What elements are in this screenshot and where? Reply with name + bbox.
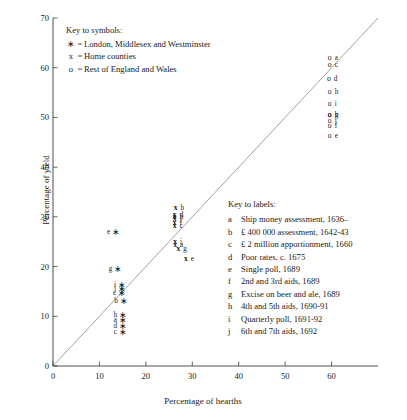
symbol-legend: Key to symbols: ∗=London, Middlesex and … <box>66 24 211 75</box>
x-tick-label: 0 <box>51 371 55 381</box>
data-point-marker: o <box>327 75 331 83</box>
x-tick-label: 20 <box>142 371 151 381</box>
label-legend-row: aShip money assessment, 1636– <box>228 213 352 225</box>
y-tick-label: 0 <box>31 361 49 371</box>
label-legend-row: j6th and 7th aids, 1692 <box>228 325 352 337</box>
label-legend-text: 6th and 7th aids, 1692 <box>241 325 317 337</box>
symbol-legend-label: Home counties <box>84 51 136 61</box>
equals-sign: = <box>76 63 84 76</box>
label-legend-id: g <box>228 288 241 300</box>
label-legend-text: Single poll, 1689 <box>241 263 300 275</box>
data-point-label: g <box>109 265 113 273</box>
label-legend-id: a <box>228 213 241 225</box>
label-legend-rows: aShip money assessment, 1636–b£ 400 000 … <box>228 213 352 337</box>
data-point-label: e <box>191 255 194 263</box>
label-legend-text: Quarterly poll, 1691-92 <box>241 313 322 325</box>
x-tick-label: 30 <box>188 371 197 381</box>
data-point-marker: o <box>328 88 332 96</box>
cross-symbol-icon: x <box>66 50 76 63</box>
label-legend-text: 2nd and 3rd aids, 1689 <box>241 275 320 287</box>
symbol-legend-title: Key to symbols: <box>66 24 211 37</box>
equals-sign: = <box>76 50 84 63</box>
scatter-plot-figure: 0102030405060010203040506070∗e∗g∗i∗j∗c∗b… <box>0 0 407 420</box>
label-legend-id: f <box>228 275 241 287</box>
data-point-marker: x <box>184 255 188 263</box>
data-point-label: g <box>183 245 187 253</box>
label-legend-id: b <box>228 226 241 238</box>
symbol-legend-row: ∗=London, Middlesex and Westminster <box>66 38 211 51</box>
data-point-label: e <box>107 228 110 236</box>
data-point-marker: ∗ <box>120 297 128 306</box>
circle-symbol-icon: o <box>66 63 76 76</box>
data-point-label: b <box>114 297 118 305</box>
x-tick-label: 60 <box>327 371 336 381</box>
label-legend-id: d <box>228 251 241 263</box>
symbol-legend-label: Rest of England and Wales <box>84 64 177 74</box>
x-tick-label: 40 <box>234 371 243 381</box>
data-point-marker: ∗ <box>112 227 120 236</box>
label-legend-text: Excise on beer and ale, 1689 <box>241 288 340 300</box>
y-axis-title: Percentage of yield <box>41 155 51 224</box>
data-point-label: h <box>335 88 339 96</box>
x-axis-title: Percentage of hearths <box>164 396 241 406</box>
data-point-marker: x <box>176 245 180 253</box>
y-tick-label: 60 <box>31 63 49 73</box>
data-point-marker: ∗ <box>114 265 122 274</box>
symbol-legend-row: x=Home counties <box>66 50 211 63</box>
label-legend-text: 4th and 5th aids, 1690-91 <box>241 300 329 312</box>
x-tick-label: 50 <box>281 371 290 381</box>
label-legend-title: Key to labels: <box>228 198 352 210</box>
y-tick-label: 70 <box>31 13 49 23</box>
label-legend-text: Poor rates, c. 1675 <box>241 251 305 263</box>
label-legend-id: h <box>228 300 241 312</box>
label-legend-text: Ship money assessment, 1636– <box>241 213 348 225</box>
symbol-legend-label: London, Middlesex and Westminster <box>84 39 211 49</box>
symbol-legend-row: o=Rest of England and Wales <box>66 63 211 76</box>
y-tick-label: 20 <box>31 262 49 272</box>
label-legend-id: e <box>228 263 241 275</box>
y-tick-label: 10 <box>31 311 49 321</box>
label-legend-text: £ 400 000 assessment, 1642-43 <box>241 226 349 238</box>
data-point-label: c <box>114 328 117 336</box>
data-point-label: i <box>335 100 337 108</box>
label-legend-text: £ 2 million apportionment, 1660 <box>241 238 352 250</box>
label-legend-id: c <box>228 238 241 250</box>
data-point-label: c <box>335 61 338 69</box>
data-point-marker: x <box>173 222 177 230</box>
label-legend-row: h4th and 5th aids, 1690-91 <box>228 300 352 312</box>
data-point-marker: ∗ <box>119 328 127 337</box>
data-point-marker: o <box>328 61 332 69</box>
label-legend-row: f2nd and 3rd aids, 1689 <box>228 275 352 287</box>
y-tick-label: 50 <box>31 112 49 122</box>
data-point-label: c <box>180 222 183 230</box>
x-tick-label: 10 <box>95 371 104 381</box>
data-point-marker: o <box>328 123 332 131</box>
label-legend-id: j <box>228 325 241 337</box>
label-legend-row: b£ 400 000 assessment, 1642-43 <box>228 226 352 238</box>
data-point-label: f <box>335 122 338 130</box>
data-point-label: d <box>334 75 338 83</box>
data-point-label: c <box>113 289 116 297</box>
data-point-marker: o <box>328 133 332 141</box>
label-legend-row: c£ 2 million apportionment, 1660 <box>228 238 352 250</box>
equals-sign: = <box>76 38 84 51</box>
label-legend-row: dPoor rates, c. 1675 <box>228 251 352 263</box>
data-point-marker: o <box>328 100 332 108</box>
star-symbol-icon: ∗ <box>66 38 76 51</box>
label-legend-row: eSingle poll, 1689 <box>228 263 352 275</box>
label-legend-row: iQuarterly poll, 1691-92 <box>228 313 352 325</box>
label-legend-row: gExcise on beer and ale, 1689 <box>228 288 352 300</box>
label-legend-id: i <box>228 313 241 325</box>
data-point-label: e <box>335 132 338 140</box>
label-legend: Key to labels: aShip money assessment, 1… <box>228 198 352 337</box>
